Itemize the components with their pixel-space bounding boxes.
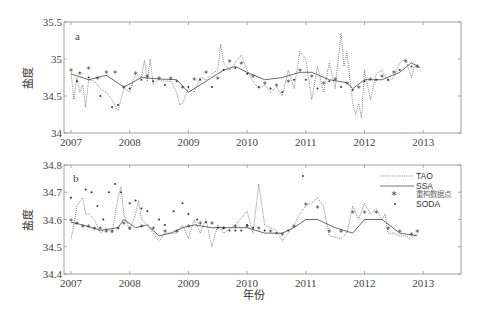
svg-text:*: * <box>69 68 73 77</box>
svg-text:*: * <box>145 74 149 83</box>
x-tick-label: 2007 <box>60 277 83 289</box>
y-tick-label: 34.5 <box>43 90 63 102</box>
svg-text:*: * <box>404 59 408 68</box>
y-tick-label: 34.5 <box>43 241 63 253</box>
svg-text:*: * <box>327 229 331 238</box>
svg-text:*: * <box>409 232 413 241</box>
svg-text:*: * <box>87 66 91 75</box>
svg-text:*: * <box>321 81 325 90</box>
svg-text:*: * <box>122 221 126 230</box>
svg-text:*: * <box>122 85 126 94</box>
chart-figure: 3434.53535.5 200720082009201020112012201… <box>0 0 477 322</box>
svg-text:*: * <box>386 226 390 235</box>
svg-text:*: * <box>110 229 114 238</box>
svg-text:*: * <box>198 221 202 230</box>
y-tick-label: 34.7 <box>43 186 63 198</box>
svg-text:*: * <box>139 224 143 233</box>
x-tick-label: 2009 <box>177 136 200 148</box>
svg-text:*: * <box>81 224 85 233</box>
svg-text:*: * <box>398 229 402 238</box>
svg-text:*: * <box>116 226 120 235</box>
svg-text:*: * <box>339 229 343 238</box>
svg-text:*: * <box>298 68 302 77</box>
svg-text:*: * <box>98 226 102 235</box>
y-tick-label: 34.6 <box>43 214 63 226</box>
svg-text:*: * <box>257 226 261 235</box>
svg-text:*: * <box>316 205 320 214</box>
svg-text:*: * <box>392 70 396 79</box>
y-tick-label: 34.8 <box>43 159 63 171</box>
panel-b-series: ************************************ <box>69 175 419 247</box>
svg-text:*: * <box>157 76 161 85</box>
svg-text:*: * <box>87 224 91 233</box>
svg-text:*: * <box>380 74 384 83</box>
series-tao <box>71 33 417 118</box>
asterisk-icon: * <box>392 190 397 201</box>
svg-text:*: * <box>263 81 267 90</box>
x-tick-label: 2012 <box>354 136 376 148</box>
svg-text:*: * <box>415 64 419 73</box>
x-tick-label: 2009 <box>177 277 200 289</box>
legend-label-tao: TAO <box>416 171 433 181</box>
svg-text:*: * <box>239 61 243 70</box>
panel-a-x-ticks: 2007200820092010201120122013 <box>60 22 435 148</box>
svg-text:*: * <box>333 77 337 86</box>
x-tick-label: 2008 <box>119 277 142 289</box>
panel-a: 3434.53535.5 200720082009201020112012201… <box>21 16 461 148</box>
panel-b-y-ticks: 34.434.534.634.734.8 <box>43 159 461 280</box>
dot-icon <box>394 203 396 205</box>
x-tick-label: 2007 <box>60 136 83 148</box>
svg-text:*: * <box>286 79 290 88</box>
legend-label-soda: SODA <box>416 199 440 209</box>
svg-text:*: * <box>69 218 73 227</box>
svg-text:*: * <box>310 74 314 83</box>
legend: TAO SSA * 重构数据点 SODA <box>380 171 452 209</box>
svg-text:*: * <box>186 224 190 233</box>
panel-a-letter: a <box>75 30 80 42</box>
svg-text:*: * <box>345 81 349 90</box>
svg-text:*: * <box>92 226 96 235</box>
svg-text:*: * <box>415 229 419 238</box>
y-tick-label: 35 <box>51 53 63 65</box>
series-reconstructed: ************************************ <box>69 202 419 241</box>
svg-text:*: * <box>216 76 220 85</box>
svg-text:*: * <box>134 71 138 80</box>
svg-text:*: * <box>104 229 108 238</box>
svg-text:*: * <box>192 77 196 86</box>
svg-text:*: * <box>95 76 99 85</box>
svg-text:*: * <box>175 229 179 238</box>
svg-text:*: * <box>75 221 79 230</box>
svg-text:*: * <box>113 70 117 79</box>
svg-text:*: * <box>269 229 273 238</box>
panel-a-frame <box>64 22 461 133</box>
x-tick-label: 2013 <box>412 136 435 148</box>
svg-text:*: * <box>151 226 155 235</box>
x-tick-label: 2010 <box>236 277 259 289</box>
panel-b-letter: b <box>73 172 79 184</box>
panel-b: 34.434.534.634.734.8 2007200820092010201… <box>21 159 461 302</box>
svg-text:*: * <box>251 74 255 83</box>
svg-text:*: * <box>374 210 378 219</box>
x-tick-label: 2008 <box>119 136 142 148</box>
svg-text:*: * <box>304 202 308 211</box>
y-tick-label: 35.5 <box>43 16 63 28</box>
svg-text:*: * <box>204 70 208 79</box>
legend-item-tao: TAO <box>380 171 433 181</box>
svg-text:*: * <box>181 85 185 94</box>
series-soda <box>76 65 413 108</box>
series-reconstructed: ******************************** <box>69 59 419 94</box>
svg-text:*: * <box>274 83 278 92</box>
svg-text:*: * <box>210 221 214 230</box>
svg-text:*: * <box>128 226 132 235</box>
panel-a-y-axis-label: 盐度 <box>21 67 35 89</box>
x-tick-label: 2011 <box>295 277 317 289</box>
panel-b-y-axis-label: 盐度 <box>21 209 35 231</box>
svg-text:*: * <box>169 76 173 85</box>
svg-text:*: * <box>227 59 231 68</box>
svg-text:*: * <box>368 77 372 86</box>
x-tick-label: 2012 <box>354 277 376 289</box>
panel-a-series: ******************************** <box>69 33 420 118</box>
x-tick-label: 2010 <box>236 136 259 148</box>
legend-label-reconstructed: 重构数据点 <box>416 189 452 199</box>
svg-text:*: * <box>104 70 108 79</box>
